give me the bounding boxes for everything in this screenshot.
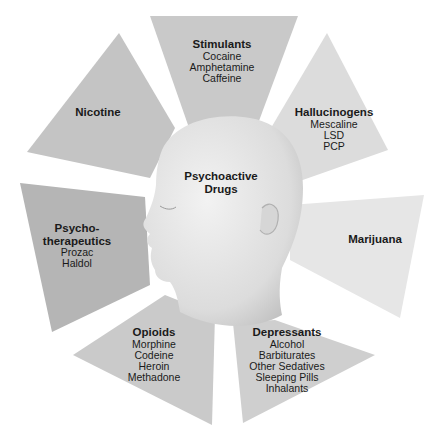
segment-title: Stimulants [190,38,255,51]
segment-item: Other Sedatives [249,361,324,372]
segment-item: Haldol [43,258,111,269]
segment-item: Methadone [128,372,181,383]
segment-item: Morphine [128,339,181,350]
segment-item: Heroin [128,361,181,372]
center-label: Psychoactive Drugs [184,170,258,196]
segment-item: Alcohol [249,339,324,350]
center-label-line2: Drugs [184,183,258,196]
label-stimulants: Stimulants Cocaine Amphetamine Caffeine [190,38,255,84]
label-opioids: Opioids Morphine Codeine Heroin Methadon… [128,326,181,383]
segment-marijuana [290,195,424,318]
segment-item: Mescaline [295,119,374,130]
segment-item: Sleeping Pills [249,372,324,383]
segment-title: Nicotine [75,106,120,119]
segment-item: Cocaine [190,51,255,62]
label-nicotine: Nicotine [75,106,120,119]
label-psychotherapeutics: Psycho- therapeutics Prozac Haldol [43,222,111,269]
segment-title: Depressants [249,326,324,339]
segment-item: PCP [295,141,374,152]
segment-title: Marijuana [348,233,402,246]
label-hallucinogens: Hallucinogens Mescaline LSD PCP [295,106,374,152]
segment-title: Opioids [128,326,181,339]
segment-item: LSD [295,130,374,141]
segment-item: Amphetamine [190,62,255,73]
segment-title: Hallucinogens [295,106,374,119]
segment-title-line1: Psycho- [43,222,111,235]
center-label-line1: Psychoactive [184,170,258,183]
segment-item: Caffeine [190,73,255,84]
label-marijuana: Marijuana [348,233,402,246]
segment-item: Barbiturates [249,350,324,361]
label-depressants: Depressants Alcohol Barbiturates Other S… [249,326,324,394]
segment-item: Codeine [128,350,181,361]
segment-item: Inhalants [249,383,324,394]
head-silhouette [143,116,303,326]
